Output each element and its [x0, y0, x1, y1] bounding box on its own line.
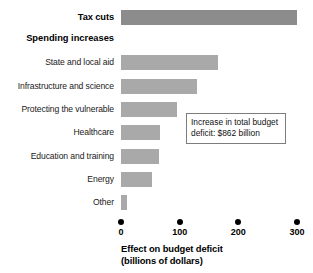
bar-tax-cuts [121, 10, 297, 25]
row-label-state-and-local-aid: State and local aid [0, 52, 114, 72]
row-label-protecting-the-vulnerable: Protecting the vulnerable [0, 99, 114, 119]
bar-chart: Tax cuts Spending increases State and lo… [0, 0, 313, 273]
axis-tick-label-200: 200 [218, 227, 258, 237]
x-axis: 0 100 200 300 Effect on budget deficit (… [0, 219, 313, 273]
axis-tick-dot-100 [177, 219, 183, 225]
chart-row-energy: Energy [0, 169, 313, 189]
row-label-energy: Energy [0, 169, 114, 189]
row-label-education-and-training: Education and training [0, 146, 114, 166]
chart-row-education-and-training: Education and training [0, 146, 313, 166]
axis-title-line-1: Effect on budget deficit [121, 243, 223, 255]
callout-line-1: Increase in total budget [191, 117, 281, 128]
bar-infrastructure-and-science [121, 79, 197, 94]
row-label-other: Other [0, 192, 114, 212]
bar-other [121, 195, 127, 210]
axis-tick-dot-0 [118, 219, 124, 225]
axis-title-line-2: (billions of dollars) [121, 255, 223, 267]
annotation-callout-total-deficit: Increase in total budget deficit: $862 b… [186, 113, 286, 144]
chart-row-infrastructure-and-science: Infrastructure and science [0, 76, 313, 96]
chart-row-state-and-local-aid: State and local aid [0, 52, 313, 72]
bar-energy [121, 172, 152, 187]
bar-education-and-training [121, 149, 159, 164]
axis-tick-label-100: 100 [160, 227, 200, 237]
axis-tick-label-300: 300 [277, 227, 313, 237]
axis-tick-dot-200 [235, 219, 241, 225]
section-heading-spending-increases: Spending increases [0, 33, 114, 43]
bar-healthcare [121, 125, 160, 140]
bar-protecting-the-vulnerable [121, 102, 177, 117]
axis-title: Effect on budget deficit (billions of do… [121, 243, 223, 266]
chart-row-other: Other [0, 192, 313, 212]
row-label-healthcare: Healthcare [0, 122, 114, 142]
bar-state-and-local-aid [121, 55, 218, 70]
chart-row-tax-cuts: Tax cuts [0, 7, 313, 27]
row-label-infrastructure-and-science: Infrastructure and science [0, 76, 114, 96]
callout-line-2: deficit: $862 billion [191, 128, 281, 139]
axis-tick-label-0: 0 [101, 227, 141, 237]
row-label-tax-cuts: Tax cuts [0, 7, 114, 27]
axis-tick-dot-300 [294, 219, 300, 225]
